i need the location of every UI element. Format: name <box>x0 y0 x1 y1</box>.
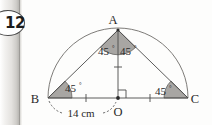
point-label-a: A <box>108 13 117 27</box>
angle-label-a-left: 45 <box>98 45 110 57</box>
segment-ac <box>118 30 188 98</box>
angle-degree-a-left: ° <box>112 44 115 51</box>
point-label-o: O <box>113 105 122 119</box>
point-label-c: C <box>191 92 199 106</box>
vertex-dot-a <box>116 28 119 31</box>
segment-ba <box>48 30 118 98</box>
point-label-b: B <box>31 92 39 106</box>
angle-degree-a-right: ° <box>134 44 137 51</box>
angle-wedge-c <box>164 81 188 98</box>
center-point-dot-o <box>116 96 120 100</box>
geometry-figure: A B C O 45 ° 45 ° 45 ° 45 ° 14 cm <box>0 0 212 125</box>
angle-label-b: 45 <box>65 82 77 94</box>
angle-label-a-right: 45 <box>120 45 132 57</box>
measure-leader-left <box>49 101 62 113</box>
question-figure-page: 12 A B C O 45 <box>0 0 212 125</box>
measurement-label-bo: 14 cm <box>67 107 95 119</box>
angle-degree-b: ° <box>79 81 82 88</box>
angle-degree-c: ° <box>169 84 172 91</box>
angle-label-c: 45 <box>155 85 167 97</box>
